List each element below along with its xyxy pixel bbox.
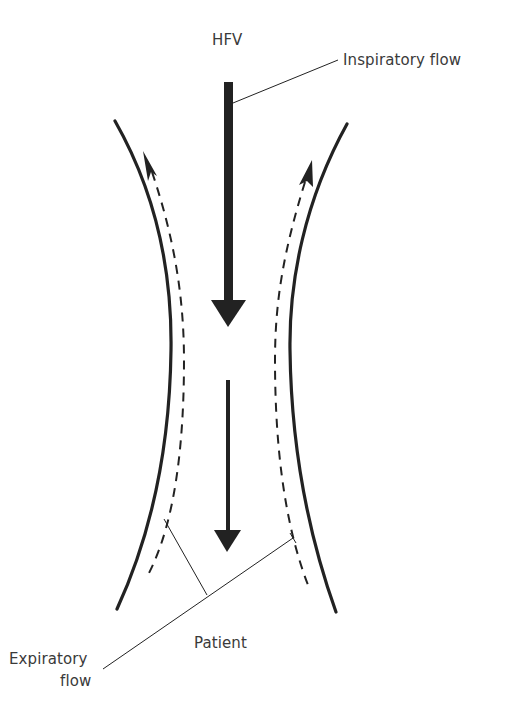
expiratory-flow-label-line1: Expiratory [9,650,88,668]
expiratory-flow-label-line2: flow [60,672,91,690]
inspiratory-arrow-shaft-small [226,380,230,532]
airway-diagram [0,0,518,715]
right-airway-wall [290,124,347,612]
expiratory-leader-line-left [164,519,207,595]
inspiratory-flow-label: Inspiratory flow [343,51,461,69]
left-expiratory-arrowhead [143,151,157,181]
left-expiratory-dashed-path [149,172,184,573]
hfv-label: HFV [212,31,242,49]
right-expiratory-arrowhead [299,160,313,187]
left-airway-wall [115,121,171,609]
inspiratory-arrow-shaft-large [224,82,233,302]
inspiratory-arrowhead-large [211,300,246,327]
inspiratory-leader-line [233,60,338,103]
patient-label: Patient [194,634,247,652]
inspiratory-arrowhead-small [214,530,241,552]
